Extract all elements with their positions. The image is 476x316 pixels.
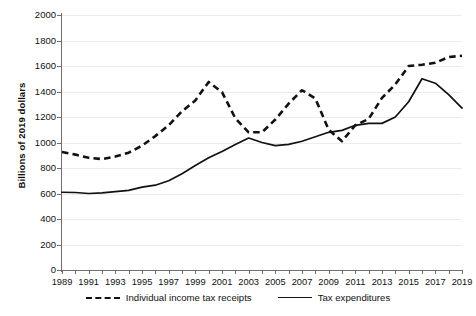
legend-label: Tax expenditures (318, 292, 391, 303)
legend-label: Individual income tax receipts (126, 292, 252, 303)
chart-figure: Billions of 2019 dollars 020040060080010… (0, 0, 476, 316)
solid-line-swatch-icon (278, 297, 312, 298)
series-line-individual-income-tax-receipts (62, 56, 462, 159)
legend-item-individual-income-tax-receipts[interactable]: Individual income tax receipts (86, 292, 252, 303)
dashed-line-swatch-icon (86, 297, 120, 299)
legend-item-tax-expenditures[interactable]: Tax expenditures (278, 292, 391, 303)
chart-series-layer (0, 0, 476, 316)
chart-legend: Individual income tax receipts Tax expen… (0, 292, 476, 303)
series-line-tax-expenditures (62, 79, 462, 194)
